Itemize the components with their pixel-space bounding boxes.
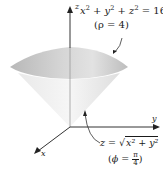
x-axis (38, 127, 70, 151)
pi-over-4-fraction: π4 (132, 152, 139, 167)
cone-surface (18, 73, 120, 127)
y-axis-label: y (152, 115, 157, 123)
sphere-equation: x2 + y2 + z2 = 16 (80, 5, 163, 16)
cone-equation: z = √x² + y² (100, 138, 158, 148)
sphere-cap (10, 47, 128, 79)
z-axis-arrowhead (67, 6, 73, 13)
rho-label: (ρ = 4) (94, 20, 129, 30)
phi-label: (ϕ = π4) (108, 152, 143, 167)
solid-diagram (0, 0, 163, 176)
sphere-leader (115, 38, 122, 52)
x-axis-label: x (41, 150, 46, 158)
cone-leader (85, 114, 100, 143)
z-axis-label: z (75, 3, 79, 11)
x-axis-arrowhead (34, 147, 41, 154)
y-axis-arrowhead (153, 124, 160, 130)
